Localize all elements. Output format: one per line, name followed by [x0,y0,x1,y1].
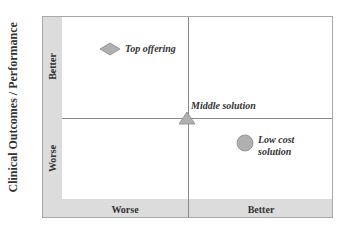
diamond-marker-icon [100,43,120,55]
label-low-cost-line1: Low cost [258,134,294,146]
triangle-marker-icon [179,112,195,124]
label-low-cost-line2: solution [258,146,291,158]
circle-marker-icon [237,135,253,151]
chart-markers [0,0,350,228]
label-top-offering: Top offering [125,43,176,55]
label-middle-solution: Middle solution [191,100,256,112]
